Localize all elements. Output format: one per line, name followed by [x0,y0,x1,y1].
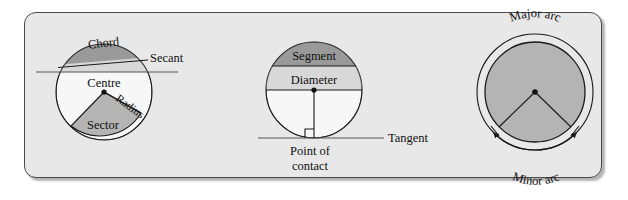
label-tangent: Tangent [388,131,429,145]
label-diameter: Diameter [291,73,338,87]
figure-arcs: Major arc Minor arc [477,6,593,188]
label-centre: Centre [87,76,121,90]
label-point-of-contact-line1: Point of [290,144,331,158]
centre-point [101,89,106,94]
label-major-arc: Major arc [508,6,564,25]
label-segment: Segment [292,49,336,63]
figure-chord-sector: Chord Secant Centre Radius Sector [36,20,184,140]
centre-point-3 [532,89,538,95]
centre-point-2 [311,87,316,92]
label-sector: Sector [87,118,120,132]
label-point-of-contact-line2: contact [292,159,329,173]
circle-diagrams-svg: Chord Secant Centre Radius Sector [0,0,628,200]
figure-segment-tangent: Segment Diameter Tangent Point of contac… [258,38,429,173]
label-secant: Secant [150,51,184,65]
label-minor-arc: Minor arc [511,169,562,188]
diagram-stage: Chord Secant Centre Radius Sector [0,0,628,200]
